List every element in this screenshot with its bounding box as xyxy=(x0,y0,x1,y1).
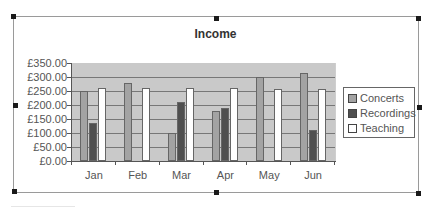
y-tick-label: £100.00 xyxy=(27,127,67,139)
resize-handle-top-center[interactable] xyxy=(214,16,219,21)
bar-concerts-may xyxy=(256,77,264,161)
bar-teaching-jan xyxy=(98,88,106,161)
x-tick-label: Mar xyxy=(160,169,204,181)
y-tick-label: £300.00 xyxy=(27,71,67,83)
x-tick-mark xyxy=(334,161,335,165)
resize-handle-bottom-right[interactable] xyxy=(416,191,421,196)
bar-concerts-feb xyxy=(124,83,132,161)
bar-concerts-apr xyxy=(212,111,220,161)
bar-recordings-jun xyxy=(309,130,317,161)
x-tick-label: Apr xyxy=(203,169,247,181)
bar-concerts-jan xyxy=(80,91,88,161)
x-tick-mark xyxy=(203,161,204,165)
bar-concerts-jun xyxy=(300,73,308,161)
resize-handle-bottom-left[interactable] xyxy=(12,189,17,194)
x-tick-label: Feb xyxy=(116,169,160,181)
y-tick-mark xyxy=(67,147,71,148)
y-tick-label: £50.00 xyxy=(33,141,67,153)
x-tick-label: May xyxy=(247,169,291,181)
resize-handle-middle-left[interactable] xyxy=(13,103,18,108)
x-tick-mark xyxy=(115,161,116,165)
y-tick-mark xyxy=(67,105,71,106)
y-tick-label: £350.00 xyxy=(27,57,67,69)
bar-recordings-mar xyxy=(177,102,185,161)
bar-teaching-apr xyxy=(230,88,238,161)
y-tick-label: £150.00 xyxy=(27,113,67,125)
plot-area xyxy=(72,63,336,161)
y-tick-mark xyxy=(67,77,71,78)
resize-handle-bottom-center[interactable] xyxy=(214,190,219,195)
chart-title: Income xyxy=(0,27,431,41)
x-tick-label: Jan xyxy=(72,169,116,181)
y-tick-mark xyxy=(67,133,71,134)
y-tick-mark xyxy=(67,91,71,92)
legend-swatch xyxy=(348,109,357,118)
bar-recordings-apr xyxy=(221,108,229,161)
resize-handle-top-right[interactable] xyxy=(416,16,421,21)
legend-item-concerts: Concerts xyxy=(348,92,404,104)
y-tick-label: £250.00 xyxy=(27,85,67,97)
legend-swatch xyxy=(348,94,357,103)
y-tick-label: £200.00 xyxy=(27,99,67,111)
gridline xyxy=(72,119,335,120)
gridline xyxy=(72,147,335,148)
x-tick-mark xyxy=(246,161,247,165)
x-tick-mark xyxy=(159,161,160,165)
bar-teaching-feb xyxy=(142,88,150,161)
gridline xyxy=(72,133,335,134)
x-tick-mark xyxy=(71,161,72,165)
bar-teaching-may xyxy=(274,89,282,161)
x-tick-label: Jun xyxy=(291,169,335,181)
y-axis xyxy=(71,63,72,162)
bar-recordings-jan xyxy=(89,123,97,161)
y-tick-mark xyxy=(67,63,71,64)
y-tick-mark xyxy=(67,119,71,120)
divider xyxy=(11,206,75,207)
gridline xyxy=(72,91,335,92)
y-tick-label: £0.00 xyxy=(39,155,67,167)
x-axis xyxy=(71,161,336,162)
bar-teaching-jun xyxy=(318,89,326,161)
bar-teaching-mar xyxy=(186,88,194,161)
bar-concerts-mar xyxy=(168,133,176,161)
legend-item-recordings: Recordings xyxy=(348,107,416,119)
x-tick-mark xyxy=(290,161,291,165)
legend-item-teaching: Teaching xyxy=(348,122,404,134)
resize-handle-middle-right[interactable] xyxy=(417,105,422,110)
legend: Concerts Recordings Teaching xyxy=(343,87,415,138)
legend-swatch xyxy=(348,124,357,133)
gridline xyxy=(72,105,335,106)
resize-handle-top-left[interactable] xyxy=(11,14,16,19)
gridline xyxy=(72,77,335,78)
